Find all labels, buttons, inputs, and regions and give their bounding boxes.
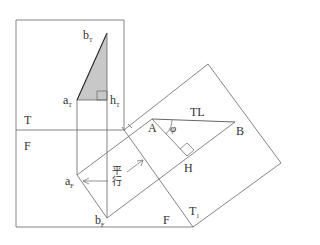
label-aT-sub: T xyxy=(68,102,72,108)
label-bF-sub: F xyxy=(101,222,104,228)
line-aF-bF xyxy=(77,175,107,218)
arrow-right-shaft xyxy=(127,160,143,172)
label-parallel-2: 行 xyxy=(112,176,122,187)
label-T1-sub: 1 xyxy=(196,213,199,219)
label-parallel-1: 平 xyxy=(112,165,122,176)
projector-bF-B xyxy=(107,122,235,218)
label-plane-F-bottom: F xyxy=(163,214,170,226)
true-length-line xyxy=(152,119,235,122)
label-hT: hT xyxy=(110,94,120,108)
label-aF: aF xyxy=(65,175,74,189)
label-B: B xyxy=(236,125,244,137)
label-plane-F: F xyxy=(24,140,31,152)
label-parallel: 平行 xyxy=(112,166,122,187)
label-TL: TL xyxy=(190,106,205,118)
label-plane-T1: T1 xyxy=(189,205,199,219)
label-bT-sub: T xyxy=(89,37,93,43)
aux-frame xyxy=(124,64,281,227)
label-plane-T: T xyxy=(24,114,31,126)
label-bT: bT xyxy=(83,29,93,43)
aux-fold-line xyxy=(122,127,193,227)
label-aF-sub: F xyxy=(70,183,73,189)
label-hT-sub: T xyxy=(116,102,120,108)
label-A: A xyxy=(148,122,157,134)
label-H: H xyxy=(184,162,193,174)
label-phi: φ xyxy=(170,123,176,134)
label-bF: bF xyxy=(95,214,104,228)
label-aT: aT xyxy=(63,94,72,108)
